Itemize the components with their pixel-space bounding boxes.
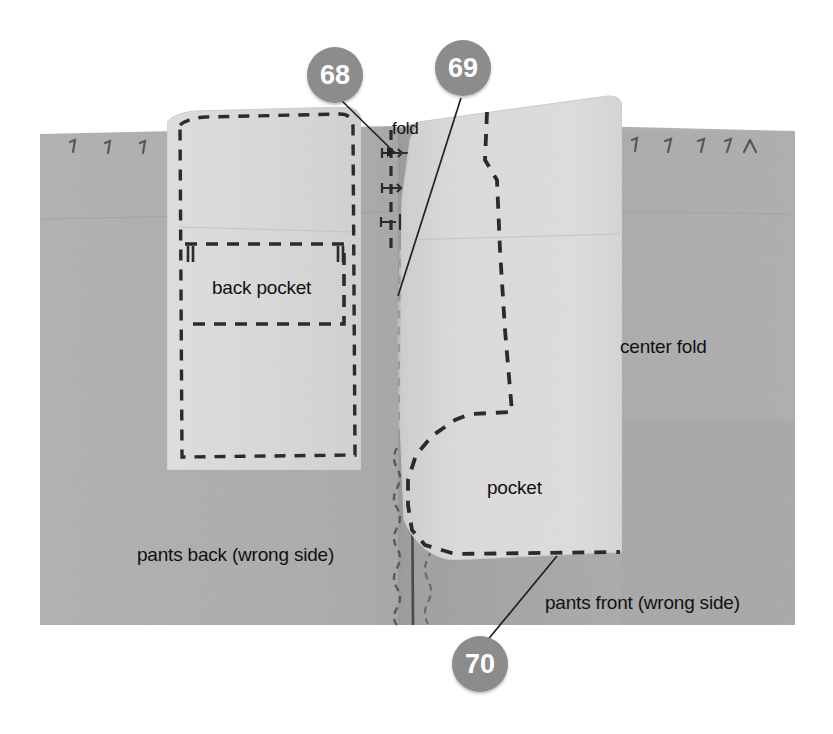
callout-69[interactable]: 69: [435, 40, 491, 96]
diagram-canvas: fold back pocket center fold pocket pant…: [0, 0, 833, 734]
callout-70[interactable]: 70: [452, 636, 508, 692]
label-back-pocket: back pocket: [212, 278, 311, 297]
label-pants-back: pants back (wrong side): [137, 545, 334, 564]
label-pants-front: pants front (wrong side): [545, 593, 740, 612]
label-center-fold: center fold: [620, 337, 707, 356]
callout-68[interactable]: 68: [307, 47, 363, 103]
label-pocket: pocket: [487, 478, 542, 497]
label-fold: fold: [392, 120, 419, 137]
sewing-photograph: [0, 0, 833, 734]
